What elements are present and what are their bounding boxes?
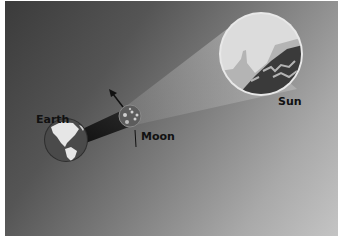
moon-label: Moon <box>141 131 175 142</box>
orbit-direction-arrow-icon <box>109 89 123 107</box>
moon-icon <box>119 105 141 127</box>
sun-label: Sun <box>278 96 302 107</box>
sun-closeup-icon <box>219 12 303 96</box>
diagram-canvas: Earth Moon Sun <box>5 1 338 236</box>
moon-label-pointer <box>135 130 136 147</box>
earth-label: Earth <box>36 114 69 125</box>
